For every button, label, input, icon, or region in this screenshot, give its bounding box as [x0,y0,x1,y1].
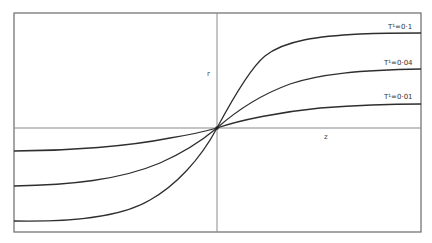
series-label-0-01: T¹=0·01 [383,93,413,101]
series-label-0-1: T¹=0·1 [387,23,412,31]
r-axis-label: r [207,70,210,78]
series-label-0-04: T¹=0·04 [383,59,413,67]
origin-point [215,126,219,130]
sigmoid-chart: r z T¹=0·1 T¹=0·04 T¹=0·01 [0,0,432,243]
z-axis-label: z [324,133,328,141]
